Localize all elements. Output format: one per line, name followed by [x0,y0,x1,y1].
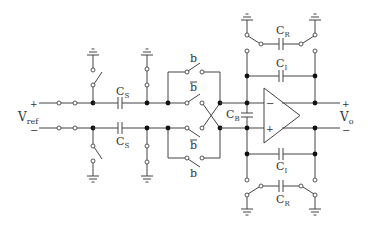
cr-bottom-label: CR [276,193,290,208]
ci-bottom-label: CI [276,160,287,175]
cs-top-label: CS [116,85,129,100]
vref-minus-sign: − [30,125,38,136]
vo-label: Vo [339,110,354,126]
chopper-switches: b b b b [166,52,223,180]
switch-bbar-top-label: b [190,81,197,94]
vref-input: + − Vref [17,99,59,136]
node2-ground-switches [141,49,168,182]
opamp: − + [264,88,340,143]
input-switches [57,101,93,130]
vo-minus-sign: − [342,125,350,136]
opamp-plus-sign: + [266,124,274,134]
vo-output: + − Vo [339,99,354,136]
cs-capacitors: CS CS [93,85,147,150]
node1-ground-switches [87,49,102,182]
cb-capacitor: CB [220,103,264,128]
ci-top-label: CI [276,57,287,72]
cs-bottom-label: CS [116,135,129,150]
circuit-diagram: + − Vref [0,0,368,228]
switch-b-top-label: b [190,52,197,65]
vref-label: Vref [17,110,39,126]
vo-plus-sign: + [342,99,350,109]
switch-bbar-bottom-label: b [190,139,197,152]
vref-plus-sign: + [30,99,38,109]
cr-top-label: CR [276,24,290,39]
opamp-minus-sign: − [266,98,274,109]
switch-b-bottom-label: b [190,167,197,180]
cb-label: CB [226,108,240,123]
